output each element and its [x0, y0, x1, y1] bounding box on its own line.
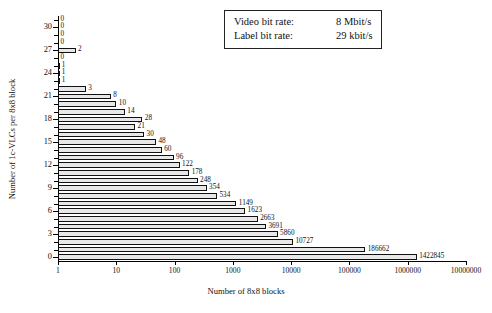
- bar-row: 186662: [58, 247, 466, 253]
- x-axis-tick: [175, 261, 176, 265]
- bar-row: 48: [58, 139, 466, 145]
- y-axis-label: Number of 1c-VLCs per 8x8 block: [7, 78, 17, 199]
- y-axis-tick: [54, 219, 58, 220]
- bar-value-label: 1623: [248, 207, 262, 214]
- y-axis-tick: [54, 227, 58, 228]
- bar: [58, 231, 278, 237]
- x-axis-tick: [116, 261, 117, 265]
- x-axis-tick: [408, 261, 409, 265]
- bar-row: 21: [58, 124, 466, 130]
- bar-value-label: 28: [145, 116, 152, 123]
- bar-value-label: 178: [192, 169, 203, 176]
- y-axis-tick: [53, 27, 58, 28]
- x-axis-tick: [466, 261, 467, 265]
- x-axis-tick-label: 1000000: [394, 267, 421, 275]
- x-axis-tick-label: 10000000: [451, 267, 481, 275]
- y-axis-tick-label: 12: [44, 161, 52, 169]
- y-axis-tick: [54, 89, 58, 90]
- y-axis-tick-label: 30: [44, 23, 52, 31]
- bar-row: 3691: [58, 224, 466, 230]
- bar-value-label: 21: [138, 123, 145, 130]
- y-axis-tick-label: 21: [44, 92, 52, 100]
- bar-value-label: 1422845: [419, 253, 444, 260]
- x-axis-tick-label: 10: [112, 267, 120, 275]
- info-box: Video bit rate: 8 Mbit/s Label bit rate:…: [224, 10, 382, 49]
- bar-value-label: 2: [78, 47, 82, 54]
- bar-value-label: 3691: [268, 223, 282, 230]
- bar: [58, 132, 144, 138]
- info-value-label-bit-rate: 29 kbit/s: [326, 29, 372, 43]
- bar: [58, 101, 116, 107]
- bar-value-label: 10727: [295, 238, 313, 245]
- bar-value-label: 0: [61, 16, 65, 23]
- x-axis-tick-label: 1: [56, 267, 60, 275]
- y-axis-tick: [54, 104, 58, 105]
- bar-row: 1: [58, 63, 466, 69]
- y-axis-tick-label: 0: [48, 253, 52, 261]
- y-axis-tick: [54, 43, 58, 44]
- y-axis-tick: [54, 150, 58, 151]
- y-axis-tick: [53, 96, 58, 97]
- y-axis-tick: [54, 20, 58, 21]
- plot-area: 1422845186662107275860369126631623114953…: [58, 16, 466, 261]
- x-axis-tick-label: 100: [169, 267, 180, 275]
- bar-value-label: 1149: [239, 200, 253, 207]
- bar: [58, 63, 60, 69]
- bar-row: 28: [58, 117, 466, 123]
- bar: [58, 170, 189, 176]
- y-axis-tick: [53, 211, 58, 212]
- bar: [58, 71, 60, 77]
- x-axis-tick-label: 1000: [225, 267, 240, 275]
- x-axis-line: [58, 261, 466, 262]
- bar-value-label: 0: [61, 31, 65, 38]
- bar-value-label: 186662: [368, 246, 390, 253]
- bar-row: 1623: [58, 208, 466, 214]
- bar-row: 178: [58, 170, 466, 176]
- x-axis-tick: [58, 261, 59, 265]
- bar-value-label: 14: [127, 108, 134, 115]
- bar-value-label: 534: [219, 192, 230, 199]
- y-axis-tick: [54, 112, 58, 113]
- bar-value-label: 48: [158, 139, 165, 146]
- x-axis-tick-label: 100000: [338, 267, 361, 275]
- bar: [58, 78, 60, 84]
- y-axis-tick: [54, 158, 58, 159]
- bar-value-label: 1: [62, 77, 66, 84]
- x-axis-tick: [291, 261, 292, 265]
- y-axis-tick-label: 6: [48, 207, 52, 215]
- bar-row: 1149: [58, 201, 466, 207]
- bar-row: 60: [58, 147, 466, 153]
- bar: [58, 216, 258, 222]
- bar: [58, 193, 217, 199]
- bar: [58, 224, 266, 230]
- bar-value-label: 3: [88, 85, 92, 92]
- y-axis-tick: [54, 35, 58, 36]
- y-axis-tick: [53, 165, 58, 166]
- y-axis-tick: [54, 66, 58, 67]
- info-value-video-bit-rate: 8 Mbit/s: [326, 15, 371, 29]
- y-axis-tick-label: 3: [48, 230, 52, 238]
- x-axis-label: Number of 8x8 blocks: [0, 286, 492, 296]
- bar-chart: Number of 1c-VLCs per 8x8 block 14228451…: [0, 0, 492, 313]
- y-axis-tick: [54, 127, 58, 128]
- info-key-video-bit-rate: Video bit rate:: [234, 15, 326, 29]
- y-axis-tick: [53, 188, 58, 189]
- bar-row: 354: [58, 185, 466, 191]
- y-axis-tick-label: 27: [44, 46, 52, 54]
- bar: [58, 86, 86, 92]
- y-axis-tick: [53, 119, 58, 120]
- y-axis-tick: [54, 242, 58, 243]
- y-axis-tick: [54, 196, 58, 197]
- bar-row: 3: [58, 86, 466, 92]
- bar: [58, 124, 135, 130]
- bar-value-label: 122: [182, 162, 193, 169]
- bar-row: 0: [58, 55, 466, 61]
- bar: [58, 201, 236, 207]
- bar-row: 10: [58, 101, 466, 107]
- y-axis-tick-label: 9: [48, 184, 52, 192]
- bar: [58, 162, 180, 168]
- y-axis-tick: [54, 181, 58, 182]
- x-axis-tick-label: 10000: [282, 267, 301, 275]
- bar-value-label: 248: [200, 177, 211, 184]
- bar-row: 96: [58, 155, 466, 161]
